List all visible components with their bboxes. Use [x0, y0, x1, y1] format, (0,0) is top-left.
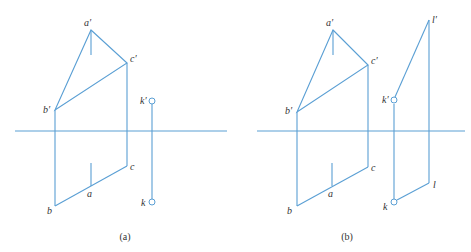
label-c: c: [130, 161, 135, 172]
panel-b: a′ c′ b′ k′ l′ a c b k l (b): [257, 14, 465, 243]
point-k-a: [149, 199, 155, 205]
label-k-prime: k′: [140, 95, 147, 106]
line-k-l: [397, 183, 429, 200]
label-c: c: [371, 162, 376, 173]
label-l-prime: l′: [432, 14, 438, 25]
point-k-prime-a: [149, 98, 155, 104]
projection-diagram: a′ c′ b′ k′ a c b k (a) a′ c′ b′ k′ l′ a…: [0, 0, 471, 252]
label-a: a: [87, 188, 92, 199]
label-b: b: [47, 205, 52, 216]
caption-b: (b): [341, 231, 353, 243]
point-k-b: [391, 199, 397, 205]
label-a-prime: a′: [326, 17, 334, 28]
panel-a: a′ c′ b′ k′ a c b k (a): [15, 17, 227, 243]
label-c-prime: c′: [371, 55, 378, 66]
label-k: k: [141, 197, 146, 208]
point-k-prime-b: [391, 97, 397, 103]
label-c-prime: c′: [130, 53, 137, 64]
label-b: b: [287, 205, 292, 216]
line-k-prime-l-prime: [395, 20, 429, 97]
label-k: k: [383, 201, 388, 212]
label-b-prime: b′: [43, 104, 51, 115]
label-k-prime: k′: [382, 94, 389, 105]
label-a-prime: a′: [84, 17, 92, 28]
label-l: l: [433, 179, 436, 190]
caption-a: (a): [119, 231, 130, 243]
label-a: a: [328, 188, 333, 199]
label-b-prime: b′: [285, 105, 293, 116]
